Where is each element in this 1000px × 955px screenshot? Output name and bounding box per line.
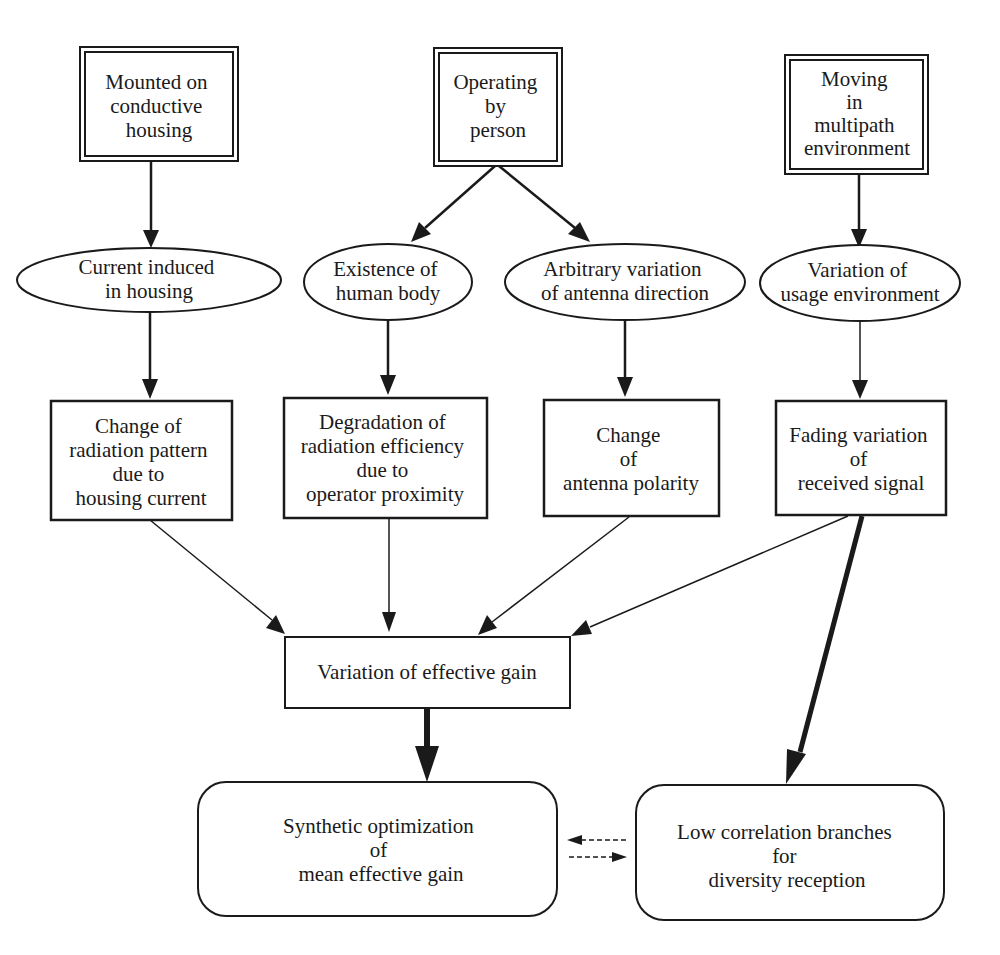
node-effect-antenna-polarity[interactable]: Change of antenna polarity	[544, 400, 719, 516]
node-cause-antenna-direction[interactable]: Arbitrary variation of antenna direction	[505, 244, 745, 320]
node-text-line: due to	[356, 458, 408, 482]
edge-s3-c4	[851, 174, 867, 248]
node-text-line: Low correlation branches	[677, 820, 892, 844]
edge-o2-o1-dashed	[567, 835, 626, 845]
node-source-moving[interactable]: Moving in multipath environment	[785, 55, 928, 174]
svg-text:Variation of effective gain: Variation of effective gain	[317, 660, 537, 684]
edge-e4-o2	[786, 516, 862, 784]
node-cause-human-body[interactable]: Existence of human body	[304, 244, 472, 320]
node-text-line: Fading variation	[789, 423, 928, 447]
node-text-line: Arbitrary variation	[543, 257, 702, 281]
node-effect-fading-variation[interactable]: Fading variation of received signal	[776, 401, 946, 515]
node-text-line: Current induced	[78, 255, 214, 279]
edge-e4-g1	[571, 516, 848, 636]
node-outcome-synthetic-optimization[interactable]: Synthetic optimization of mean effective…	[198, 782, 557, 916]
node-text-line: housing	[126, 118, 193, 142]
arrowhead-icon	[380, 375, 396, 395]
arrowhead-icon	[478, 615, 497, 635]
node-text-line: usage environment	[780, 282, 939, 306]
node-text-line: Mounted on	[105, 70, 208, 94]
node-cause-usage-environment[interactable]: Variation of usage environment	[760, 245, 960, 321]
edge-e2-g1	[382, 518, 396, 632]
node-text-line: Synthetic optimization	[283, 814, 474, 838]
node-text-line: by	[485, 94, 507, 118]
flow-diagram: Mounted on conductive housing Operating …	[0, 0, 1000, 955]
edge-s1-c1	[143, 161, 159, 248]
node-text-line: Degradation of	[319, 410, 446, 434]
arrowhead-icon	[852, 380, 868, 399]
arrowhead-icon	[617, 377, 633, 397]
edge-c1-e1	[142, 311, 158, 399]
edge-c2-e2	[380, 320, 396, 395]
node-source-operating[interactable]: Operating by person	[434, 48, 562, 166]
edge-o1-o2-dashed	[569, 852, 627, 862]
node-text-line: Existence of	[333, 257, 437, 281]
node-text-line: conductive	[110, 94, 202, 118]
node-text-line: for	[772, 844, 797, 868]
svg-text:Existence of human body: Existence of human body	[333, 257, 443, 305]
node-effect-radiation-pattern[interactable]: Change of radiation pattern due to housi…	[51, 401, 232, 520]
node-outcome-low-correlation[interactable]: Low correlation branches for diversity r…	[636, 785, 944, 920]
node-text-line: due to	[112, 462, 164, 486]
node-text-line: radiation efficiency	[301, 434, 465, 458]
arrowhead-icon	[142, 379, 158, 399]
node-text-line: in housing	[105, 279, 194, 303]
node-text-line: person	[470, 118, 526, 142]
node-text-line: operator proximity	[306, 482, 465, 506]
node-cause-current-induced[interactable]: Current induced in housing	[17, 248, 281, 312]
node-text-line: human body	[336, 281, 441, 305]
edge-c3-e3	[617, 320, 633, 397]
node-text-line: of	[850, 447, 868, 471]
edge-s2-c3	[499, 166, 590, 242]
node-text-line: environment	[804, 136, 910, 160]
arrowhead-icon	[612, 852, 627, 862]
edge-e3-g1	[478, 517, 629, 635]
edge-c4-e4	[852, 321, 868, 399]
node-text-line: Change	[596, 423, 660, 447]
node-text-line: housing current	[75, 486, 206, 510]
edge-e1-g1	[150, 520, 285, 634]
node-text-line: multipath	[814, 113, 895, 137]
svg-text:Arbitrary variation of a: Arbitrary variation of antenna direction	[541, 257, 709, 305]
node-text-line: of antenna direction	[541, 281, 709, 305]
arrowhead-icon	[786, 749, 806, 784]
arrowhead-icon	[143, 230, 159, 248]
node-text-line: of	[620, 447, 638, 471]
node-text-line: radiation pattern	[69, 438, 208, 462]
node-text-line: Variation of effective gain	[317, 660, 537, 684]
node-source-mounted[interactable]: Mounted on conductive housing	[80, 47, 238, 161]
node-effect-radiation-efficiency[interactable]: Degradation of radiation efficiency due …	[284, 398, 487, 518]
node-text-line: diversity reception	[709, 868, 866, 892]
node-text-line: Variation of	[808, 258, 908, 282]
arrowhead-icon	[382, 612, 396, 632]
node-variation-effective-gain[interactable]: Variation of effective gain	[285, 637, 570, 708]
arrowhead-icon	[567, 835, 582, 845]
node-text-line: antenna polarity	[563, 471, 699, 495]
node-text-line: Change of	[95, 414, 182, 438]
node-text-line: received signal	[798, 471, 925, 495]
edge-g1-o1	[415, 708, 439, 782]
node-text-line: in	[846, 90, 863, 114]
node-text-line: Moving	[821, 67, 888, 91]
edge-s2-c2	[411, 166, 495, 242]
arrowhead-icon	[571, 620, 592, 636]
arrowhead-icon	[415, 746, 439, 782]
node-text-line: Operating	[453, 70, 537, 94]
node-text-line: mean effective gain	[298, 862, 464, 886]
node-text-line: of	[370, 838, 388, 862]
